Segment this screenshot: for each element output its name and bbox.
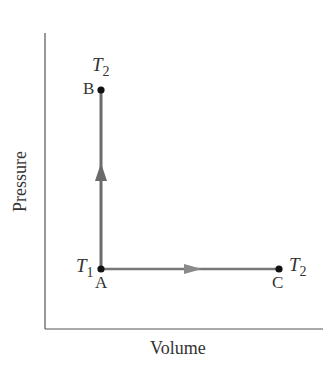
temp-subscript: 2 [300, 264, 307, 279]
x-axis-label: Volume [150, 338, 206, 359]
temp-symbol: T [92, 54, 103, 75]
y-axis-label: Pressure [10, 147, 31, 217]
arrow-up-icon [95, 163, 107, 181]
point-c-label: C [272, 273, 283, 293]
temp-symbol: T [76, 255, 87, 276]
temp-symbol: T [289, 254, 300, 275]
point-b-dot [97, 86, 104, 93]
point-c-temp-label: T2 [289, 254, 307, 280]
point-a-temp-label: T1 [76, 255, 94, 281]
point-a-dot [97, 265, 104, 272]
point-a-label: A [95, 273, 107, 293]
point-c-dot [275, 265, 282, 272]
point-b-label: B [83, 79, 94, 99]
arrow-right-icon [184, 264, 202, 274]
point-b-temp-label: T2 [92, 54, 110, 80]
temp-subscript: 1 [87, 265, 94, 280]
diagram-canvas [0, 0, 335, 366]
temp-subscript: 2 [103, 64, 110, 79]
